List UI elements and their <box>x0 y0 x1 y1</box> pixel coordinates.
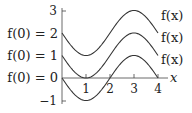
curve-f0-1 <box>62 33 158 78</box>
x-tick-label-4: 4 <box>154 82 162 96</box>
x-tick-label-2: 2 <box>106 82 114 96</box>
y-tick-label-3: 3 <box>49 4 57 18</box>
right-label-bottom: f(x) <box>161 52 183 67</box>
left-label-f0-2: f(0) = 2 <box>7 26 58 41</box>
left-label-f0-1: f(0) = 1 <box>7 48 58 63</box>
curve-f0-2 <box>62 11 158 56</box>
x-tick-label-3: 3 <box>130 82 138 96</box>
left-label-f0-0: f(0) = 0 <box>7 70 58 85</box>
right-label-mid: f(x) <box>161 30 183 45</box>
right-label-top: f(x) <box>161 8 183 23</box>
x-axis-label: x <box>170 70 178 85</box>
y-tick-label-neg1: −1 <box>39 94 57 108</box>
chart: 3 −1 1 2 3 4 x f(0) = 2 f(0) = 1 f(0) = … <box>0 0 192 113</box>
x-tick-label-1: 1 <box>82 82 90 96</box>
